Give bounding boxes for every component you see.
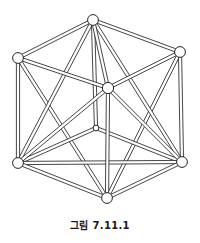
- vertex-node-top-right: [175, 47, 186, 58]
- edge-rod: [18, 160, 182, 164]
- graph-diagram: [0, 0, 200, 212]
- edges-group: [16, 18, 183, 199]
- edge-rod: [107, 87, 183, 163]
- vertex-node-top: [88, 15, 99, 26]
- vertex-node-bottom-left: [13, 158, 24, 169]
- edge-rod: [178, 52, 183, 162]
- figure-page: 그림 7.11.1: [0, 0, 200, 243]
- edge-rod: [105, 88, 109, 198]
- edge-rod: [16, 58, 19, 163]
- vertex-node-center: [102, 82, 113, 93]
- vertex-node-bottom-right: [177, 157, 188, 168]
- vertex-node-back-center: [93, 125, 99, 131]
- figure-caption: 그림 7.11.1: [0, 219, 200, 232]
- edge-rod: [92, 18, 180, 53]
- vertex-node-bottom: [102, 193, 113, 204]
- vertex-node-top-left: [13, 53, 24, 64]
